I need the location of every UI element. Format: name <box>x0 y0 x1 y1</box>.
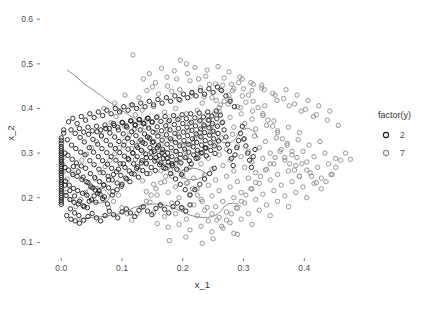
legend-label-2[interactable]: 2 <box>400 130 405 140</box>
y-tick-label: 0.2 <box>21 193 33 203</box>
y-tick-label: 0.5 <box>21 59 33 69</box>
x-tick-label: 0.3 <box>238 263 250 273</box>
x-axis-title: x_1 <box>195 279 210 290</box>
y-tick-label: 0.3 <box>21 148 33 158</box>
legend-label-7[interactable]: 7 <box>400 148 405 158</box>
x-tick-label: 0.4 <box>298 263 310 273</box>
chart-canvas: 0.10.20.30.40.50.6 0.00.10.20.30.4 x_1 x… <box>0 0 434 309</box>
y-axis-title: x_2 <box>5 125 16 140</box>
x-tick-label: 0.2 <box>177 263 189 273</box>
x-tick-label: 0.1 <box>116 263 128 273</box>
x-tick-label: 0.0 <box>55 263 67 273</box>
scatter-plot-figure: 0.10.20.30.40.50.6 0.00.10.20.30.4 x_1 x… <box>0 0 434 309</box>
legend-title: factor(y) <box>378 110 411 120</box>
y-tick-label: 0.4 <box>21 103 33 113</box>
y-tick-label: 0.6 <box>21 14 33 24</box>
y-tick-label: 0.1 <box>21 237 33 247</box>
